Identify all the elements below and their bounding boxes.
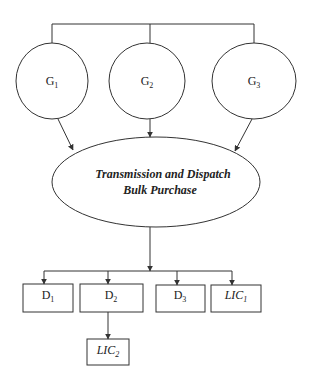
top-bus [52,24,254,43]
svg-text:G1: G1 [46,74,59,90]
svg-text:G2: G2 [141,74,154,90]
svg-text:Transmission and Dispatch: Transmission and Dispatch [95,167,231,181]
svg-text:G3: G3 [248,74,261,90]
output-d3: D3 [156,285,205,312]
output-d1: D1 [23,284,73,312]
svg-text:LIC1: LIC1 [224,288,248,304]
output-lic1: LIC1 [211,285,261,312]
svg-text:LIC2: LIC2 [96,343,120,359]
diagram: G1 G2 G3 Transmission and Dispatch Bulk … [0,0,311,384]
generator-arrows [58,119,252,151]
svg-text:D3: D3 [174,288,187,304]
generator-g2: G2 [109,43,185,119]
svg-text:D2: D2 [105,288,118,304]
generator-g1: G1 [16,43,88,119]
svg-text:Bulk Purchase: Bulk Purchase [122,183,197,197]
output-lic2: LIC2 [87,339,129,365]
output-d2: D2 [80,284,143,312]
output-bus [44,227,232,339]
svg-text:D1: D1 [42,288,55,304]
transmission-dispatch-node: Transmission and Dispatch Bulk Purchase [52,137,260,227]
generator-g3: G3 [212,43,296,119]
